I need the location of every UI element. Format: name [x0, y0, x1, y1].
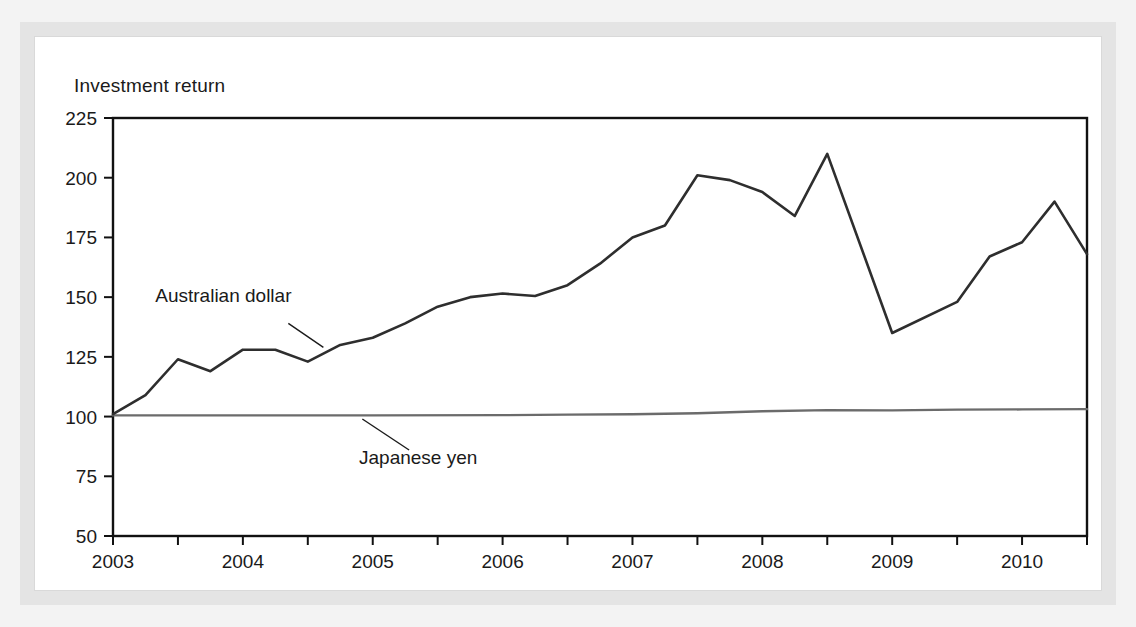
figure-panel [34, 36, 1102, 591]
page-root: Investment return 5075100125150175200225… [0, 0, 1136, 627]
chart-title: Investment return [74, 75, 225, 97]
